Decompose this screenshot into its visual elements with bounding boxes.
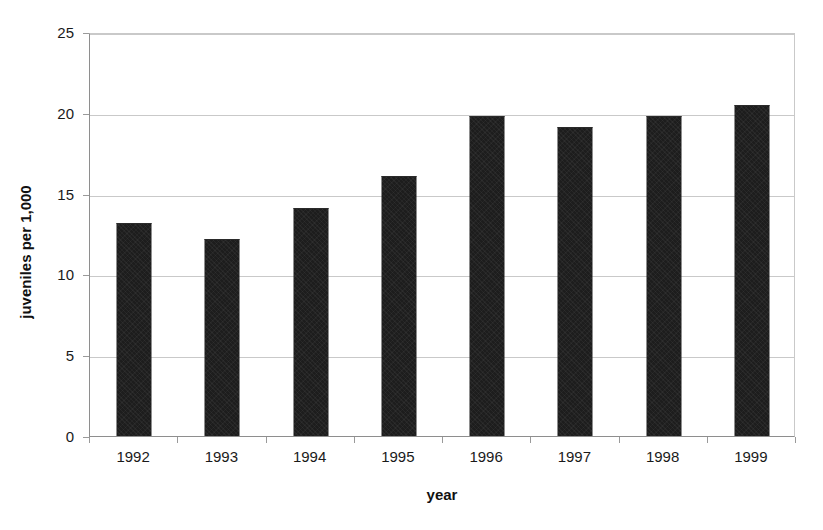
- x-axis-tick-label: 1994: [266, 448, 354, 466]
- bar: [293, 208, 328, 436]
- bar: [558, 127, 593, 436]
- x-axis-tick-mark: [177, 437, 178, 443]
- bar-slot: [443, 34, 531, 436]
- x-axis-tick-label: 1995: [354, 448, 442, 466]
- x-axis-tick-label: 1998: [619, 448, 707, 466]
- x-axis-tick-label: 1999: [707, 448, 795, 466]
- y-axis-tick-label: 15: [36, 187, 74, 202]
- x-axis-tick-mark: [442, 437, 443, 443]
- x-axis-tick-label: 1996: [442, 448, 530, 466]
- y-axis-tick-labels: 0510152025: [36, 33, 74, 437]
- bar-slot: [90, 34, 178, 436]
- x-axis-tick-mark: [619, 437, 620, 443]
- y-axis-tick-label: 5: [36, 348, 74, 363]
- bar-slot: [531, 34, 619, 436]
- y-axis-tick-label: 0: [36, 429, 74, 444]
- bar-chart-figure: juveniles per 1,000 0510152025 199219931…: [0, 0, 823, 530]
- x-axis-tick-labels: 19921993199419951996199719981999: [89, 448, 795, 468]
- x-axis-tick-label: 1992: [89, 448, 177, 466]
- bar-slot: [267, 34, 355, 436]
- bar-slot: [708, 34, 796, 436]
- x-axis-tick-mark: [707, 437, 708, 443]
- bar: [734, 105, 769, 436]
- bar: [117, 223, 152, 436]
- x-axis-tick-mark: [530, 437, 531, 443]
- bar: [205, 239, 240, 436]
- bar-series: [90, 34, 794, 436]
- x-axis-tick-mark: [795, 437, 796, 443]
- x-axis-tick-mark: [354, 437, 355, 443]
- plot-area: [89, 33, 795, 437]
- y-axis-tick-label: 25: [36, 25, 74, 40]
- x-axis-tick-marks: [89, 437, 795, 444]
- y-axis-tick-label: 10: [36, 267, 74, 282]
- bar: [470, 116, 505, 436]
- bar-slot: [178, 34, 266, 436]
- bar: [646, 116, 681, 436]
- bar: [381, 176, 416, 436]
- y-axis-tick-label: 20: [36, 106, 74, 121]
- x-axis-title: year: [89, 486, 795, 503]
- bar-slot: [355, 34, 443, 436]
- x-axis-tick-label: 1997: [530, 448, 618, 466]
- x-axis-tick-mark: [89, 437, 90, 443]
- x-axis-tick-mark: [266, 437, 267, 443]
- x-axis-tick-label: 1993: [177, 448, 265, 466]
- bar-slot: [620, 34, 708, 436]
